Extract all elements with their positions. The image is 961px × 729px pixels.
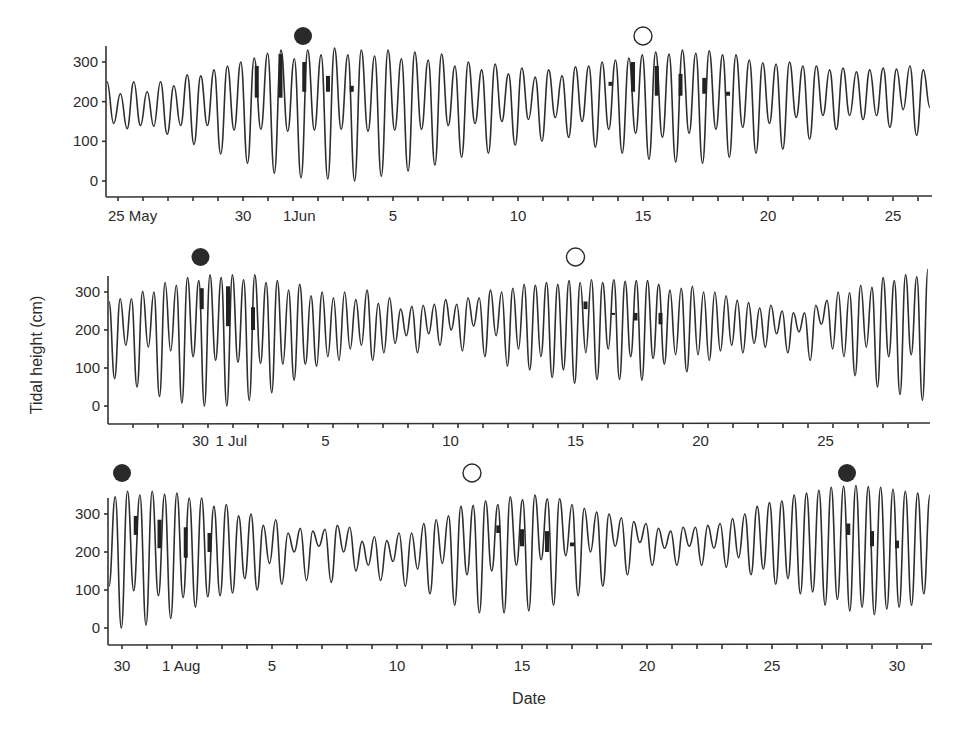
full-moon-icon — [463, 464, 481, 482]
observation-mark — [208, 533, 212, 552]
x-tick-label: 30 — [192, 432, 209, 449]
observation-mark — [631, 62, 635, 92]
y-tick-label: 300 — [75, 283, 100, 300]
x-tick-label: 30 — [114, 657, 131, 674]
x-tick-label: 20 — [760, 207, 777, 224]
observation-mark — [655, 66, 659, 96]
new-moon-icon — [294, 27, 312, 45]
x-tick-label: 20 — [692, 432, 709, 449]
observation-mark — [200, 288, 204, 309]
y-tick-label: 100 — [75, 581, 100, 598]
x-tick-label: 25 May — [108, 207, 158, 224]
y-tick-label: 300 — [73, 53, 98, 70]
observation-mark — [184, 527, 188, 557]
tide-curve — [109, 269, 928, 406]
y-tick-label: 0 — [92, 619, 100, 636]
panel-2: 0100200300301 Jul510152025 — [75, 248, 930, 449]
x-tick-label: 15 — [514, 657, 531, 674]
x-tick-label: 15 — [635, 207, 652, 224]
x-tick-label: 10 — [510, 207, 527, 224]
y-tick-label: 200 — [73, 93, 98, 110]
new-moon-icon — [192, 248, 210, 266]
observation-mark — [279, 54, 283, 98]
x-tick-label: 15 — [567, 432, 584, 449]
observation-mark — [496, 525, 500, 533]
x-tick-label: 1 Aug — [162, 657, 200, 674]
y-tick-label: 300 — [75, 505, 100, 522]
x-tick-label: 5 — [389, 207, 397, 224]
x-tick-label: 25 — [817, 432, 834, 449]
observation-mark — [870, 531, 874, 546]
x-tick-label: 1 Jul — [216, 432, 248, 449]
tidal-height-chart: Tidal height (cm) Date 010020030025 May3… — [0, 0, 961, 729]
observation-mark — [570, 543, 574, 547]
observation-mark — [634, 313, 638, 321]
y-tick-label: 200 — [75, 321, 100, 338]
observation-mark — [134, 516, 138, 535]
observation-mark — [255, 66, 259, 98]
y-tick-label: 0 — [92, 397, 100, 414]
tide-curve — [107, 48, 930, 181]
x-axis — [108, 423, 930, 424]
new-moon-icon — [113, 464, 131, 482]
x-axis — [106, 196, 932, 197]
y-tick-label: 0 — [90, 172, 98, 189]
observation-mark — [545, 531, 549, 552]
x-axis-title: Date — [512, 690, 546, 707]
x-tick-label: 5 — [321, 432, 329, 449]
full-moon-icon — [567, 248, 585, 266]
observation-mark — [895, 541, 899, 549]
y-tick-label: 100 — [75, 359, 100, 376]
observation-mark — [659, 313, 663, 324]
x-tick-label: 1Jun — [283, 207, 316, 224]
observation-mark — [350, 86, 354, 92]
new-moon-icon — [838, 464, 856, 482]
observation-mark — [302, 62, 306, 92]
x-tick-label: 20 — [639, 657, 656, 674]
panel-1: 010020030025 May301Jun510152025 — [73, 27, 932, 224]
observation-mark — [702, 78, 706, 94]
observation-mark — [584, 302, 588, 310]
full-moon-icon — [634, 27, 652, 45]
chart-panels: 010020030025 May301Jun510152025010020030… — [73, 27, 932, 674]
x-axis — [108, 644, 932, 645]
observation-mark — [611, 313, 615, 315]
observation-mark — [226, 286, 230, 326]
x-tick-label: 5 — [268, 657, 276, 674]
observation-mark — [326, 76, 330, 92]
x-tick-label: 10 — [389, 657, 406, 674]
y-tick-label: 100 — [73, 132, 98, 149]
observation-mark — [520, 529, 524, 546]
observation-mark — [251, 307, 255, 330]
observation-mark — [609, 82, 613, 86]
x-tick-label: 10 — [442, 432, 459, 449]
observation-mark — [158, 520, 162, 549]
x-tick-label: 30 — [235, 207, 252, 224]
x-tick-label: 25 — [885, 207, 902, 224]
x-tick-label: 30 — [889, 657, 906, 674]
observation-mark — [726, 92, 730, 96]
tide-curve — [109, 486, 930, 629]
x-tick-label: 25 — [764, 657, 781, 674]
y-axis-title: Tidal height (cm) — [28, 296, 45, 415]
observation-mark — [846, 524, 850, 535]
y-tick-label: 200 — [75, 543, 100, 560]
panel-3: 0100200300301 Aug51015202530 — [75, 464, 932, 674]
observation-mark — [679, 74, 683, 96]
